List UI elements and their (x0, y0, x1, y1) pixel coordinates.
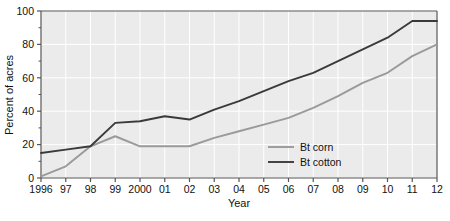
x-tick-label: 12 (431, 183, 443, 195)
chart-figure: 020406080100 199697989920000102030405060… (0, 0, 450, 221)
x-tick-label: 07 (307, 183, 319, 195)
y-tick-label: 80 (22, 38, 34, 50)
x-tick-label: 02 (184, 183, 196, 195)
legend-label-bt-cotton[interactable]: Bt cotton (300, 156, 342, 168)
x-tick-label: 97 (60, 183, 72, 195)
x-tick-label: 99 (109, 183, 121, 195)
x-tick-label: 08 (332, 183, 344, 195)
y-tick-label: 20 (22, 138, 34, 150)
x-tick-label: 03 (208, 183, 220, 195)
x-tick-label: 1996 (29, 183, 53, 195)
x-tick-label: 98 (85, 183, 97, 195)
x-tick-label: 05 (258, 183, 270, 195)
x-tick-label: 01 (159, 183, 171, 195)
y-axis-label: Percent of acres (3, 54, 15, 135)
y-tick-label: 40 (22, 105, 34, 117)
y-tick-label: 60 (22, 72, 34, 84)
x-tick-label: 10 (382, 183, 394, 195)
x-tick-label: 04 (233, 183, 245, 195)
x-tick-label: 09 (357, 183, 369, 195)
x-axis-label: Year (228, 197, 251, 209)
x-tick-label: 2000 (128, 183, 152, 195)
y-tick-label: 100 (16, 5, 34, 17)
line-chart: 020406080100 199697989920000102030405060… (0, 0, 450, 221)
x-tick-label: 11 (407, 183, 418, 195)
legend-label-bt-corn[interactable]: Bt corn (300, 141, 333, 153)
x-tick-label: 06 (283, 183, 295, 195)
